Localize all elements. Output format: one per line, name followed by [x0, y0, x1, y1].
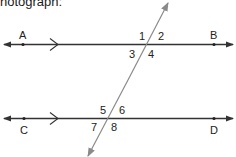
angle-7: 7 — [91, 121, 97, 133]
label-b: B — [210, 29, 217, 41]
transversal-line — [88, 3, 168, 156]
line-ab — [4, 39, 233, 51]
parallel-lines-diagram: A B C D 1 2 3 4 5 6 7 8 — [0, 0, 236, 157]
point-d — [212, 117, 215, 120]
angle-2: 2 — [158, 30, 164, 42]
label-d: D — [210, 124, 218, 136]
point-a — [21, 43, 24, 46]
angle-8: 8 — [111, 121, 117, 133]
angle-3: 3 — [129, 48, 135, 60]
point-c — [22, 117, 25, 120]
angle-1: 1 — [139, 30, 145, 42]
angle-4: 4 — [148, 48, 154, 60]
diagram-root: hotograph: — [0, 0, 236, 157]
angle-6: 6 — [119, 104, 125, 116]
angle-5: 5 — [100, 104, 106, 116]
label-c: C — [20, 124, 28, 136]
label-a: A — [19, 29, 27, 41]
point-b — [212, 43, 215, 46]
